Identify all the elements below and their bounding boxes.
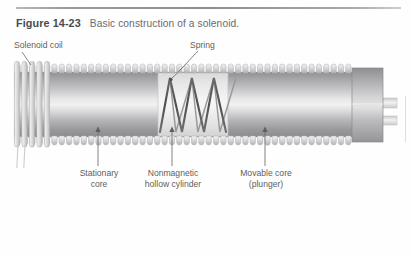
label-stationary-core: Stationary core	[68, 168, 130, 189]
coil-turn-top	[316, 64, 321, 73]
coil-turn-bottom	[191, 136, 196, 145]
label-stationary-core-line1: Stationary	[68, 168, 130, 179]
coil-turn-bottom	[111, 136, 116, 145]
coil-turn-top	[213, 64, 218, 73]
coil-turn-bottom	[206, 136, 211, 145]
coil-turn-bottom	[74, 136, 79, 145]
coil-turn-bottom	[133, 136, 138, 145]
coil-turn-bottom	[52, 136, 57, 145]
coil-turn-bottom	[147, 136, 152, 145]
coil-turn-bottom	[235, 136, 240, 145]
coil-turn-top	[243, 64, 248, 73]
label-spring: Spring	[190, 40, 215, 51]
coil-turn-bottom	[338, 136, 343, 145]
coil-turn-bottom	[125, 136, 130, 145]
coil-turn-bottom	[118, 136, 123, 145]
coil-turn-top	[221, 64, 226, 73]
coil-turn-bottom	[162, 136, 167, 145]
label-movable-core-line2: (plunger)	[228, 179, 304, 190]
coil-turn-bottom	[155, 136, 160, 145]
coil-turn-bottom	[81, 136, 86, 145]
coil-turn-top	[272, 64, 277, 73]
coil-turn-bottom	[221, 136, 226, 145]
label-movable-core-line1: Movable core	[228, 168, 304, 179]
movable-core-body	[228, 72, 352, 137]
coil-turn-top	[309, 64, 314, 73]
coil-turn-bottom	[140, 136, 145, 145]
coil-turn-top	[265, 64, 270, 73]
coil-turn-bottom	[316, 136, 321, 145]
coil-lead-wire	[24, 144, 25, 168]
figure-container: Figure 14-23Basic construction of a sole…	[0, 0, 412, 258]
coil-turn-bottom	[243, 136, 248, 145]
coil-turn-bottom	[177, 136, 182, 145]
coil-turn-top	[294, 64, 299, 73]
coil-turn-top	[89, 64, 94, 73]
stationary-core-body	[14, 72, 158, 137]
leader-spring-dot	[169, 78, 172, 81]
solenoid-coil-loop	[37, 61, 42, 147]
coil-turn-top	[235, 64, 240, 73]
coil-turn-top	[228, 64, 233, 73]
coil-turn-top	[302, 64, 307, 73]
coil-turn-bottom	[324, 136, 329, 145]
coil-turn-top	[52, 64, 57, 73]
coil-turn-top	[199, 64, 204, 73]
plunger-cap	[352, 68, 383, 142]
coil-winding-top	[15, 64, 351, 73]
coil-turn-bottom	[213, 136, 218, 145]
label-nonmagnetic-hollow-cylinder: Nonmagnetic hollow cylinder	[128, 168, 218, 189]
coil-turn-top	[250, 64, 255, 73]
coil-turn-bottom	[184, 136, 189, 145]
coil-turn-bottom	[272, 136, 277, 145]
coil-turn-bottom	[228, 136, 233, 145]
label-solenoid-coil: Solenoid coil	[14, 40, 63, 51]
solenoid-coil-left-loops	[14, 61, 49, 168]
page-right-edge-line	[405, 96, 406, 142]
coil-turn-bottom	[250, 136, 255, 145]
coil-turn-top	[66, 64, 71, 73]
label-stationary-core-line2: core	[68, 179, 130, 190]
coil-turn-bottom	[89, 136, 94, 145]
coil-turn-top	[125, 64, 130, 73]
coil-turn-top	[346, 64, 351, 73]
coil-lead-wire	[17, 144, 18, 168]
solenoid-coil-loop	[44, 61, 49, 147]
coil-turn-bottom	[59, 136, 64, 145]
coil-turn-bottom	[66, 136, 71, 145]
coil-turn-top	[287, 64, 292, 73]
coil-turn-bottom	[309, 136, 314, 145]
coil-turn-bottom	[265, 136, 270, 145]
coil-turn-top	[96, 64, 101, 73]
coil-turn-bottom	[302, 136, 307, 145]
coil-turn-top	[331, 64, 336, 73]
coil-turn-bottom	[287, 136, 292, 145]
solenoid-illustration	[0, 0, 412, 258]
solenoid-coil-loop	[14, 61, 19, 147]
label-nonmagnetic-line2: hollow cylinder	[128, 179, 218, 190]
coil-turn-top	[140, 64, 145, 73]
coil-turn-top	[133, 64, 138, 73]
coil-turn-bottom	[346, 136, 351, 145]
coil-turn-top	[147, 64, 152, 73]
coil-turn-top	[118, 64, 123, 73]
plunger-shaft-lower	[381, 116, 397, 125]
coil-turn-bottom	[280, 136, 285, 145]
coil-turn-top	[155, 64, 160, 73]
label-nonmagnetic-line1: Nonmagnetic	[128, 168, 218, 179]
coil-turn-bottom	[331, 136, 336, 145]
coil-turn-top	[81, 64, 86, 73]
coil-turn-top	[258, 64, 263, 73]
solenoid-coil-loop	[22, 61, 27, 147]
coil-turn-top	[338, 64, 343, 73]
coil-turn-top	[191, 64, 196, 73]
plunger-end-assembly	[352, 68, 397, 142]
coil-turn-bottom	[199, 136, 204, 145]
coil-turn-top	[169, 64, 174, 73]
solenoid-coil-loop	[29, 61, 34, 147]
coil-turn-bottom	[294, 136, 299, 145]
label-movable-core: Movable core (plunger)	[228, 168, 304, 189]
coil-turn-top	[324, 64, 329, 73]
coil-turn-top	[206, 64, 211, 73]
coil-turn-top	[280, 64, 285, 73]
